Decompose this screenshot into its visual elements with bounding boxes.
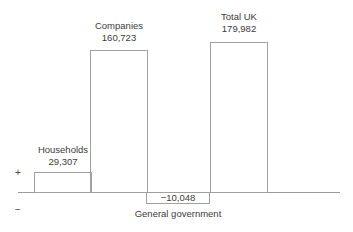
bar-label-total-uk: Total UK (199, 11, 279, 23)
bar-value-companies: 160,723 (79, 32, 159, 44)
bar-companies[interactable] (90, 50, 148, 193)
bar-households[interactable] (34, 172, 92, 193)
waterfall-bar-chart: + − Households 29,307 Companies 160,723 … (0, 0, 353, 232)
bar-label-general-government: General government (108, 208, 248, 220)
bar-label-companies: Companies (79, 20, 159, 32)
bar-total-uk[interactable] (210, 42, 268, 193)
negative-sign-marker: − (13, 205, 23, 215)
positive-sign-marker: + (13, 168, 23, 178)
bar-value-general-government: −10,048 (140, 192, 216, 204)
bar-value-total-uk: 179,982 (199, 23, 279, 35)
